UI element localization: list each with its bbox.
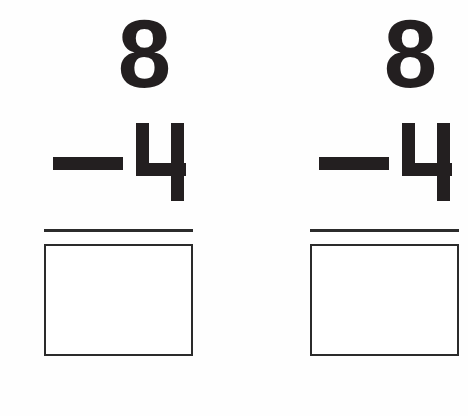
minuend-digit: 8	[362, 6, 458, 102]
minus-sign-icon	[319, 157, 389, 170]
four-right-stem	[171, 123, 184, 201]
answer-box[interactable]	[310, 244, 459, 356]
subtraction-problem-1: 8	[0, 0, 200, 416]
subtrahend-digit	[402, 123, 452, 201]
subtraction-problem-2: 8	[266, 0, 466, 416]
four-crossbar	[136, 163, 186, 176]
answer-rule-line	[44, 229, 193, 232]
answer-rule-line	[310, 229, 459, 232]
answer-box[interactable]	[44, 244, 193, 356]
subtrahend-digit	[136, 123, 186, 201]
four-right-stem	[437, 123, 450, 201]
four-crossbar	[402, 163, 452, 176]
worksheet-page: 8 8	[0, 0, 468, 416]
minus-sign-icon	[53, 157, 123, 170]
minuend-digit: 8	[96, 6, 192, 102]
